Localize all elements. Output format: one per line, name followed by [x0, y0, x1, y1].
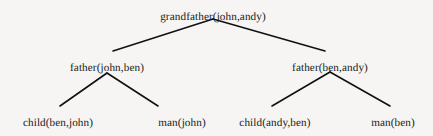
- node-grandfather-john-andy: grandfather(john,andy): [160, 11, 266, 24]
- edge-father-john-right: [107, 73, 158, 106]
- node-father-john-ben: father(john,ben): [70, 62, 144, 75]
- edge-father-ben-left: [272, 72, 330, 106]
- edge-father-john-left: [60, 73, 107, 106]
- node-man-ben: man(ben): [371, 117, 415, 130]
- edge-father-ben-right: [330, 72, 390, 106]
- node-father-ben-andy: father(ben,andy): [292, 62, 368, 75]
- proof-tree-figure: grandfather(john,andy) father(john,ben) …: [0, 0, 433, 136]
- node-child-ben-john: child(ben,john): [23, 117, 93, 130]
- node-child-andy-ben: child(andy,ben): [239, 117, 310, 130]
- node-man-john: man(john): [158, 117, 206, 130]
